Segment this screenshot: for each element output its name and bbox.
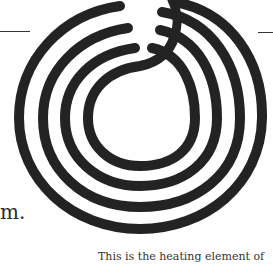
spiral-heating-coil-icon [0, 0, 273, 240]
figure-caption: This is the heating element of [98, 250, 264, 264]
body-text-fragment: m. [0, 201, 25, 223]
